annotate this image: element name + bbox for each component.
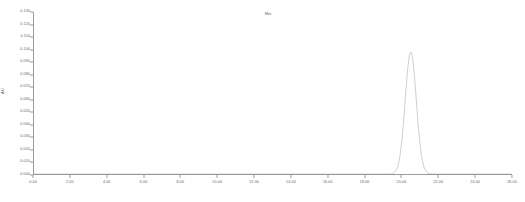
y-tick-label: 0.130 bbox=[20, 10, 30, 14]
detector-trace-line bbox=[34, 52, 512, 174]
x-tick-label: 6.00 bbox=[140, 181, 148, 185]
y-tick-label: 0.010 bbox=[20, 161, 30, 165]
x-tick-label: 14.00 bbox=[286, 181, 296, 185]
y-axis: 0.1300.1200.1100.1000.0900.0800.0700.060… bbox=[0, 0, 33, 202]
x-tick-mark bbox=[401, 175, 402, 178]
x-tick-label: 8.00 bbox=[177, 181, 185, 185]
x-tick-label: 12.00 bbox=[249, 181, 259, 185]
y-tick-label: 0.040 bbox=[20, 123, 30, 127]
chromatogram-chart: 0.1300.1200.1100.1000.0900.0800.0700.060… bbox=[0, 0, 525, 202]
x-tick-label: 10.00 bbox=[212, 181, 222, 185]
y-tick-label: 0.030 bbox=[20, 136, 30, 140]
y-tick-label: 0.090 bbox=[20, 60, 30, 64]
x-tick-label: 20.00 bbox=[397, 181, 407, 185]
x-tick-mark bbox=[106, 175, 107, 178]
x-tick-mark bbox=[143, 175, 144, 178]
x-axis: 0.002.004.006.008.0010.0012.0014.0016.00… bbox=[0, 175, 525, 202]
x-tick-mark bbox=[364, 175, 365, 178]
x-tick-mark bbox=[438, 175, 439, 178]
x-tick-label: 24.00 bbox=[470, 181, 480, 185]
x-axis-title: Min bbox=[265, 12, 271, 16]
x-tick-label: 26.00 bbox=[507, 181, 517, 185]
plot-area bbox=[33, 12, 512, 175]
y-tick-label: 0.050 bbox=[20, 111, 30, 115]
x-tick-mark bbox=[69, 175, 70, 178]
x-tick-mark bbox=[475, 175, 476, 178]
y-tick-label: 0.020 bbox=[20, 148, 30, 152]
x-tick-mark bbox=[217, 175, 218, 178]
x-tick-mark bbox=[327, 175, 328, 178]
y-tick-label: 0.070 bbox=[20, 85, 30, 89]
x-tick-mark bbox=[290, 175, 291, 178]
y-tick-label: 0.100 bbox=[20, 48, 30, 52]
y-tick-label: 0.120 bbox=[20, 23, 30, 27]
y-axis-title: AU bbox=[1, 88, 5, 94]
detector-trace-svg bbox=[34, 12, 512, 174]
x-tick-label: 4.00 bbox=[103, 181, 111, 185]
y-tick-label: 0.060 bbox=[20, 98, 30, 102]
x-tick-mark bbox=[512, 175, 513, 178]
plot-inner bbox=[34, 12, 512, 174]
x-tick-mark bbox=[33, 175, 34, 178]
y-tick-label: 0.110 bbox=[21, 35, 30, 39]
x-tick-label: 0.00 bbox=[29, 181, 37, 185]
x-tick-label: 18.00 bbox=[360, 181, 370, 185]
x-tick-label: 2.00 bbox=[66, 181, 74, 185]
x-tick-label: 16.00 bbox=[323, 181, 333, 185]
x-tick-mark bbox=[254, 175, 255, 178]
x-tick-mark bbox=[180, 175, 181, 178]
y-tick-label: 0.080 bbox=[20, 73, 30, 77]
x-tick-label: 22.00 bbox=[433, 181, 443, 185]
